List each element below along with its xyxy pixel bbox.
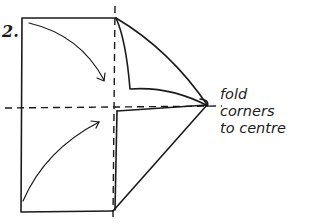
step-number: 2. bbox=[2, 22, 19, 41]
bottom-flap-center-edge bbox=[115, 111, 117, 210]
instruction-line-3: to centre bbox=[220, 120, 286, 137]
bottom-folded-flap bbox=[113, 105, 207, 211]
instruction-line-2: corners bbox=[220, 103, 286, 120]
arrow-bottom-curve bbox=[23, 122, 99, 201]
square-left-outline bbox=[21, 18, 116, 212]
instruction-line-1: fold bbox=[220, 86, 286, 103]
fold-instruction: fold corners to centre bbox=[220, 86, 286, 137]
arrow-top-curve bbox=[29, 23, 104, 80]
top-flap-outer-edge bbox=[116, 18, 208, 106]
horizontal-fold-line bbox=[5, 106, 222, 108]
top-folded-flap bbox=[116, 18, 208, 106]
